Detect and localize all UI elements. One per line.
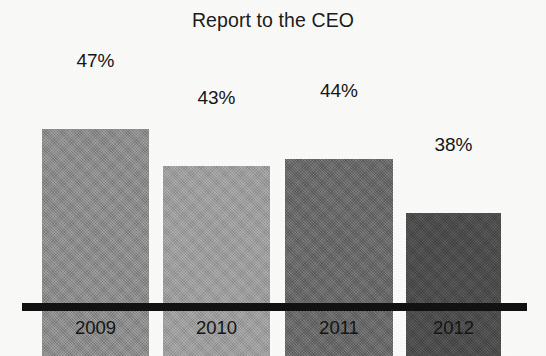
bar-value-label: 44% xyxy=(285,80,393,102)
x-axis-tick-label: 2012 xyxy=(406,317,501,339)
x-axis-tick-label: 2009 xyxy=(42,317,149,339)
bar-chart: Report to the CEO 47% 2009 43% 2010 44% … xyxy=(0,0,546,356)
bar-value-label: 38% xyxy=(406,134,501,156)
x-axis-line xyxy=(22,303,527,311)
plot-area: 47% 2009 43% 2010 44% 2011 38% 2012 xyxy=(0,0,546,356)
bar-value-label: 47% xyxy=(42,50,149,72)
x-axis-tick-label: 2011 xyxy=(285,317,393,339)
x-axis-tick-label: 2010 xyxy=(163,317,270,339)
bar-value-label: 43% xyxy=(163,87,270,109)
